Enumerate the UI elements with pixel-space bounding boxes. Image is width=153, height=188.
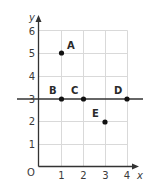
point-d bbox=[124, 96, 129, 101]
coordinate-plane: y x O 6 5 4 3 2 1 1 2 3 4 A B C D E bbox=[0, 0, 153, 188]
point-b-label: B bbox=[49, 85, 57, 96]
y-tick-2: 2 bbox=[29, 116, 35, 127]
x-tick-3: 3 bbox=[102, 170, 108, 181]
point-e bbox=[102, 119, 107, 124]
x-tick-4: 4 bbox=[124, 170, 130, 181]
point-a bbox=[59, 50, 64, 55]
y-tick-labels: 6 5 4 3 2 1 bbox=[29, 26, 35, 151]
y-axis-arrow-icon bbox=[36, 15, 42, 22]
point-e-label: E bbox=[92, 108, 99, 119]
y-tick-3: 3 bbox=[29, 94, 35, 105]
x-axis-label: x bbox=[136, 170, 143, 181]
x-tick-2: 2 bbox=[80, 170, 86, 181]
origin-label: O bbox=[27, 167, 35, 178]
point-c bbox=[81, 96, 86, 101]
y-tick-4: 4 bbox=[29, 71, 35, 82]
point-d-label: D bbox=[114, 85, 122, 96]
y-tick-1: 1 bbox=[29, 139, 35, 150]
y-tick-5: 5 bbox=[29, 48, 35, 59]
x-axis-arrow-icon bbox=[132, 164, 139, 170]
point-b bbox=[59, 96, 64, 101]
point-c-label: C bbox=[71, 85, 78, 96]
x-tick-labels: 1 2 3 4 bbox=[58, 170, 130, 181]
y-axis-label: y bbox=[28, 12, 36, 23]
point-a-label: A bbox=[67, 40, 75, 51]
x-tick-1: 1 bbox=[58, 170, 64, 181]
y-tick-6: 6 bbox=[29, 26, 35, 37]
